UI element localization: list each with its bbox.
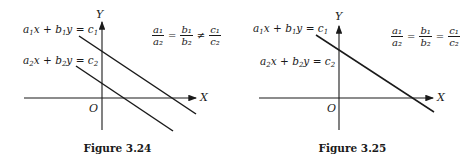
- figure-caption: Figure 3.24: [0, 142, 235, 154]
- equation-1-label: a1x + b1y = c1: [253, 22, 328, 36]
- x-axis-label: X: [200, 91, 208, 104]
- y-axis-label: Y: [96, 8, 103, 21]
- origin-label: O: [327, 102, 336, 115]
- origin-label: O: [89, 102, 98, 115]
- y-axis-label: Y: [335, 10, 342, 23]
- equation-1-label: a1x + b1y = c1: [23, 23, 98, 37]
- equation-2-label: a2x + b2y = c2: [260, 55, 335, 69]
- ratio-condition: a₁a₂ = b₁b₂ = c₁c₂: [391, 25, 460, 48]
- x-axis-label: X: [437, 91, 445, 104]
- figure-3-25: a1x + b1y = c1 a2x + b2y = c2 Y X O a₁a₂…: [235, 0, 470, 162]
- figure-3-24: a1x + b1y = c1 a2x + b2y = c2 Y X O a₁a₂…: [0, 0, 235, 162]
- equation-2-label: a2x + b2y = c2: [23, 54, 98, 68]
- ratio-condition: a₁a₂ = b₁b₂ ≠ c₁c₂: [152, 24, 221, 47]
- figure-caption: Figure 3.25: [235, 142, 470, 154]
